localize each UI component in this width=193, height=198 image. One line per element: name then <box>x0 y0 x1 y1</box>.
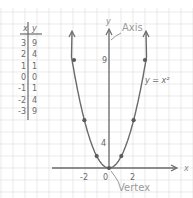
table-cell-x: 3 <box>21 39 26 48</box>
table-cell-x: 2 <box>21 50 26 59</box>
table-cell-y: 0 <box>32 73 37 82</box>
data-point <box>107 166 111 170</box>
y-tick-label: 9 <box>102 56 107 65</box>
x-tick-label: 2 <box>130 173 135 182</box>
chart-canvas: x y 39241100-11-24-39 x y -2 0 2 4 9 <box>0 0 193 198</box>
data-point <box>143 58 147 62</box>
data-point <box>95 154 99 158</box>
table-cell-y: 9 <box>32 107 37 116</box>
table-cell-y: 4 <box>32 50 37 59</box>
vertex-annotation: Vertex <box>118 182 150 193</box>
table-header-x: x <box>22 24 28 33</box>
table-cell-x: 0 <box>21 73 26 82</box>
x-tick-label: 0 <box>103 173 108 182</box>
y-tick-label: 4 <box>101 139 106 148</box>
equation-label: y = x² <box>144 76 170 85</box>
axis-pointer-icon <box>111 33 121 40</box>
table-cell-x: -1 <box>18 84 26 93</box>
data-point <box>132 118 136 122</box>
grid-paper <box>0 8 193 198</box>
vertex-pointer-icon <box>111 171 119 183</box>
table-cell-x: -3 <box>18 107 26 116</box>
table-cell-y: 9 <box>32 39 37 48</box>
table-cell-y: 1 <box>32 84 37 93</box>
xy-table: x y 39241100-11-24-39 <box>18 22 42 120</box>
data-point <box>82 118 86 122</box>
table-cell-y: 4 <box>32 96 37 105</box>
y-axis-label: y <box>105 17 111 26</box>
table-header-y: y <box>31 24 37 33</box>
parabola-figure: x y 39241100-11-24-39 x y -2 0 2 4 9 <box>0 0 193 198</box>
axis-annotation: Axis <box>122 22 143 33</box>
data-point <box>72 58 76 62</box>
x-tick-label: -2 <box>80 173 88 182</box>
data-point <box>119 154 123 158</box>
x-axis-label: x <box>183 164 189 173</box>
table-cell-x: 1 <box>21 62 26 71</box>
table-cell-y: 1 <box>32 62 37 71</box>
table-cell-x: -2 <box>18 96 26 105</box>
